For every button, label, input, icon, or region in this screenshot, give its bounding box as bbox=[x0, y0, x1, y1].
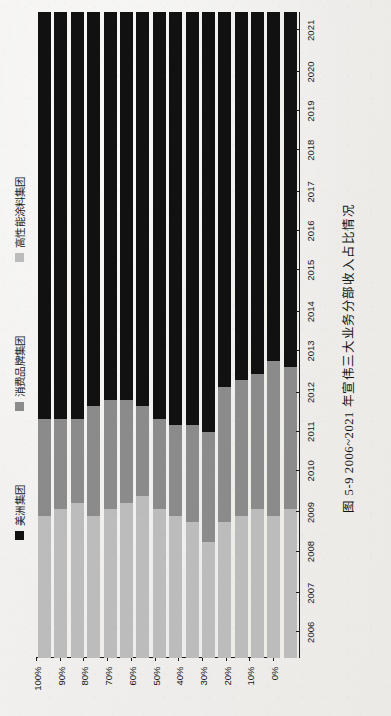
category-tick bbox=[296, 269, 300, 270]
category-label-2011: 2011 bbox=[305, 421, 316, 441]
bar-segment-consumer bbox=[235, 380, 248, 516]
category-label-2008: 2008 bbox=[305, 541, 316, 562]
category-tick bbox=[296, 592, 300, 593]
category-label-2017: 2017 bbox=[305, 181, 316, 202]
bar-segment-americas bbox=[186, 12, 199, 425]
bar-row bbox=[186, 12, 199, 658]
bar-segment-performance bbox=[38, 516, 51, 658]
bar-segment-americas bbox=[38, 12, 51, 419]
category-tick bbox=[296, 551, 300, 552]
bar-segment-consumer bbox=[71, 419, 84, 503]
bar-segment-consumer bbox=[284, 367, 297, 509]
bar-segment-americas bbox=[120, 12, 133, 400]
category-axis: 2006200720082009201020112012201320142015… bbox=[300, 12, 326, 658]
category-label-2007: 2007 bbox=[305, 583, 316, 604]
bar-segment-performance bbox=[104, 509, 117, 658]
legend-swatch-performance bbox=[15, 253, 24, 262]
bar-row bbox=[218, 12, 231, 658]
bar-row bbox=[235, 12, 248, 658]
category-tick bbox=[296, 149, 300, 150]
bar-segment-performance bbox=[202, 542, 215, 658]
legend-label-2: 消费品牌集团 bbox=[12, 336, 27, 397]
bar-segment-americas bbox=[202, 12, 215, 432]
bar-segment-performance bbox=[169, 516, 182, 658]
value-tick-label: 10% bbox=[245, 667, 256, 686]
bar-row bbox=[38, 12, 51, 658]
bar-segment-americas bbox=[251, 12, 264, 374]
bar-segment-americas bbox=[169, 12, 182, 425]
value-tick-label: 90% bbox=[55, 667, 66, 686]
category-label-2012: 2012 bbox=[305, 382, 316, 403]
legend-label-1: 美洲集团 bbox=[12, 485, 27, 526]
bar-row bbox=[202, 12, 215, 658]
bar-segment-americas bbox=[71, 12, 84, 419]
legend-item-1: 美洲集团 bbox=[12, 485, 27, 540]
bar-row bbox=[104, 12, 117, 658]
bar-segment-americas bbox=[218, 12, 231, 387]
category-tick bbox=[296, 191, 300, 192]
plot-inner: 0%10%20%30%40%50%60%70%80%90%100% bbox=[36, 12, 300, 658]
scanned-page-background: 美洲集团消费品牌集团高性能涂料集团 0%10%20%30%40%50%60%70… bbox=[0, 0, 391, 716]
bar-row bbox=[136, 12, 149, 658]
category-tick bbox=[296, 511, 300, 512]
category-label-2020: 2020 bbox=[305, 61, 316, 82]
bar-segment-consumer bbox=[38, 419, 51, 516]
category-label-2015: 2015 bbox=[305, 260, 316, 281]
category-label-2018: 2018 bbox=[305, 140, 316, 161]
bar-segment-performance bbox=[235, 516, 248, 658]
bar-segment-performance bbox=[153, 509, 166, 658]
legend-label-3: 高性能涂料集团 bbox=[12, 176, 27, 247]
value-tick-label: 60% bbox=[126, 667, 137, 686]
category-label-2016: 2016 bbox=[305, 220, 316, 241]
bar-segment-americas bbox=[104, 12, 117, 400]
bar-segment-consumer bbox=[202, 432, 215, 542]
bar-segment-performance bbox=[87, 516, 100, 658]
category-tick bbox=[296, 311, 300, 312]
value-tick-label: 0% bbox=[269, 667, 280, 681]
bar-series-container bbox=[36, 12, 299, 658]
category-label-2010: 2010 bbox=[305, 460, 316, 481]
category-tick bbox=[296, 110, 300, 111]
bar-segment-americas bbox=[87, 12, 100, 406]
category-label-2006: 2006 bbox=[305, 622, 316, 643]
bar-row bbox=[267, 12, 280, 658]
figure-5-9: 美洲集团消费品牌集团高性能涂料集团 0%10%20%30%40%50%60%70… bbox=[0, 0, 391, 716]
category-label-2021: 2021 bbox=[305, 20, 316, 41]
category-tick bbox=[296, 470, 300, 471]
bar-segment-consumer bbox=[120, 400, 133, 503]
value-tick-label: 80% bbox=[79, 667, 90, 686]
bar-segment-consumer bbox=[267, 361, 280, 516]
bar-segment-performance bbox=[284, 509, 297, 658]
legend-item-2: 消费品牌集团 bbox=[12, 336, 27, 411]
bar-segment-performance bbox=[71, 503, 84, 658]
category-label-2019: 2019 bbox=[305, 101, 316, 122]
value-tick-label: 70% bbox=[103, 667, 114, 686]
plot-area: 0%10%20%30%40%50%60%70%80%90%100% 200620… bbox=[36, 12, 326, 658]
bar-segment-performance bbox=[251, 509, 264, 658]
bar-segment-consumer bbox=[87, 406, 100, 516]
category-tick bbox=[296, 631, 300, 632]
legend-swatch-consumer bbox=[15, 402, 24, 411]
bar-segment-consumer bbox=[218, 387, 231, 523]
bar-segment-americas bbox=[235, 12, 248, 380]
legend-swatch-americas bbox=[15, 531, 24, 540]
category-tick bbox=[296, 230, 300, 231]
bar-segment-consumer bbox=[54, 419, 67, 509]
bar-row bbox=[251, 12, 264, 658]
bar-segment-consumer bbox=[251, 374, 264, 510]
bar-segment-performance bbox=[218, 522, 231, 658]
bar-segment-americas bbox=[284, 12, 297, 367]
bar-segment-performance bbox=[120, 503, 133, 658]
bar-row bbox=[169, 12, 182, 658]
rotated-figure-wrapper: 美洲集团消费品牌集团高性能涂料集团 0%10%20%30%40%50%60%70… bbox=[0, 0, 391, 716]
bar-segment-consumer bbox=[104, 400, 117, 510]
category-tick bbox=[296, 431, 300, 432]
bar-segment-performance bbox=[267, 516, 280, 658]
bar-row bbox=[284, 12, 297, 658]
value-tick-label: 100% bbox=[32, 667, 43, 691]
value-tick-label: 40% bbox=[174, 667, 185, 686]
bar-segment-americas bbox=[54, 12, 67, 419]
category-tick bbox=[296, 392, 300, 393]
bar-segment-performance bbox=[136, 497, 149, 659]
category-label-2013: 2013 bbox=[305, 340, 316, 361]
